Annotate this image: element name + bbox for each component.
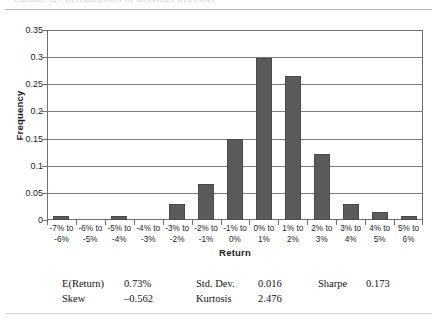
top-divider bbox=[5, 9, 432, 10]
x-axis-tick-label: 5% to6% bbox=[394, 224, 423, 245]
x-tick-line-1: -5% to bbox=[107, 224, 131, 233]
x-tick-line-1: -3% to bbox=[165, 224, 189, 233]
x-tick-line-2: 4% bbox=[345, 235, 357, 244]
y-axis-tick-label: 0.35 bbox=[0, 25, 43, 35]
x-axis-tick-label: -5% to-4% bbox=[105, 224, 134, 245]
histogram-bar bbox=[111, 216, 127, 220]
stat-value: 0.016 bbox=[258, 278, 282, 289]
x-axis-tick-mark bbox=[422, 220, 423, 225]
y-axis-tick-label: 0.15 bbox=[0, 134, 43, 144]
x-tick-line-2: -5% bbox=[83, 235, 98, 244]
stat-label: Skew bbox=[62, 293, 85, 304]
stat-value: –0.562 bbox=[124, 293, 153, 304]
histogram-bar bbox=[401, 216, 417, 220]
x-tick-line-2: 3% bbox=[316, 235, 328, 244]
x-tick-line-1: -4% to bbox=[136, 224, 160, 233]
histogram-bar bbox=[198, 184, 214, 220]
stat-label: E(Return) bbox=[62, 278, 104, 289]
x-tick-line-2: -2% bbox=[170, 235, 185, 244]
x-tick-line-1: 1% to bbox=[282, 224, 303, 233]
histogram-bar bbox=[314, 154, 330, 220]
x-tick-line-1: -1% to bbox=[223, 224, 247, 233]
x-tick-line-1: -6% to bbox=[79, 224, 103, 233]
x-tick-line-2: -4% bbox=[112, 235, 127, 244]
x-axis-tick-label: 2% to3% bbox=[307, 224, 336, 245]
x-tick-line-1: -2% to bbox=[194, 224, 218, 233]
x-tick-line-1: 2% to bbox=[311, 224, 332, 233]
x-axis-tick-label: -2% to-1% bbox=[192, 224, 221, 245]
x-axis-tick-label: -6% to-5% bbox=[76, 224, 105, 245]
histogram-bar bbox=[227, 139, 243, 220]
stat-label: Std. Dev. bbox=[196, 278, 235, 289]
y-axis-tick-label: 0.3 bbox=[0, 52, 43, 62]
stats-row: Skew–0.562Kurtosis2.476 bbox=[0, 293, 437, 308]
histogram-bar bbox=[343, 204, 359, 220]
x-tick-line-2: 1% bbox=[258, 235, 270, 244]
x-tick-line-2: 0% bbox=[229, 235, 241, 244]
histogram-bar bbox=[285, 76, 301, 220]
y-axis-tick-label: 0.05 bbox=[0, 188, 43, 198]
histogram-bar bbox=[372, 212, 388, 220]
stat-value: 0.173 bbox=[366, 278, 390, 289]
y-axis-tick-label: 0.1 bbox=[0, 161, 43, 171]
gridline bbox=[47, 111, 423, 112]
x-tick-line-2: 6% bbox=[403, 235, 415, 244]
x-tick-line-2: 5% bbox=[374, 235, 386, 244]
stat-label: Sharpe bbox=[318, 278, 347, 289]
x-tick-line-2: -1% bbox=[199, 235, 214, 244]
gridline bbox=[47, 84, 423, 85]
histogram-bar bbox=[256, 58, 272, 220]
stat-value: 2.476 bbox=[258, 293, 282, 304]
bottom-divider bbox=[5, 313, 432, 314]
histogram-bar bbox=[169, 204, 185, 220]
x-axis-tick-label: -4% to-3% bbox=[134, 224, 163, 245]
x-tick-line-2: -3% bbox=[141, 235, 156, 244]
x-axis-tick-label: -3% to-2% bbox=[163, 224, 192, 245]
stats-row: E(Return)0.73%Std. Dev.0.016Sharpe0.173 bbox=[0, 278, 437, 293]
histogram-bar bbox=[53, 216, 69, 220]
histogram-figure: Frequency 00.050.10.150.20.250.30.35 -7%… bbox=[0, 14, 437, 272]
x-tick-line-1: 4% to bbox=[369, 224, 390, 233]
y-axis-tick-label: 0.2 bbox=[0, 106, 43, 116]
x-tick-line-2: -6% bbox=[54, 235, 69, 244]
stat-value: 0.73% bbox=[124, 278, 151, 289]
x-axis-tick-label: 0% to1% bbox=[249, 224, 278, 245]
exhibit-caption: EXHIBIT 12.7 DISTRIBUTION OF MONTHLY RET… bbox=[14, 0, 214, 4]
x-axis-tick-label: -7% to-6% bbox=[47, 224, 76, 245]
x-axis-tick-label: -1% to0% bbox=[221, 224, 250, 245]
y-axis-tick-label: 0 bbox=[0, 215, 43, 225]
x-tick-line-2: 2% bbox=[287, 235, 299, 244]
summary-statistics: E(Return)0.73%Std. Dev.0.016Sharpe0.173S… bbox=[0, 278, 437, 308]
x-axis-tick-label: 4% to5% bbox=[365, 224, 394, 245]
x-axis-tick-label: 3% to4% bbox=[336, 224, 365, 245]
exhibit-caption-strip: EXHIBIT 12.7 DISTRIBUTION OF MONTHLY RET… bbox=[0, 0, 437, 7]
x-tick-line-1: 5% to bbox=[398, 224, 419, 233]
y-axis-tick-label: 0.25 bbox=[0, 79, 43, 89]
x-tick-line-1: 0% to bbox=[253, 224, 274, 233]
y-axis-tick-mark bbox=[42, 30, 47, 31]
x-tick-line-1: 3% to bbox=[340, 224, 361, 233]
x-axis-title: Return bbox=[47, 247, 423, 258]
gridline bbox=[47, 57, 423, 58]
x-tick-line-1: -7% to bbox=[50, 224, 74, 233]
stat-label: Kurtosis bbox=[196, 293, 232, 304]
x-axis-tick-label: 1% to2% bbox=[278, 224, 307, 245]
